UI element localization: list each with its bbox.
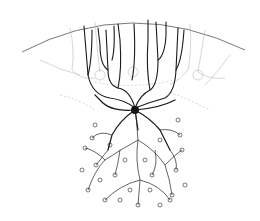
- terminal-boutons: [80, 118, 187, 207]
- neuron-drawing: [0, 0, 260, 221]
- axon-arbor: [85, 115, 182, 205]
- neuron-illustration: [0, 0, 260, 221]
- cortex-surface-arc: [22, 23, 245, 52]
